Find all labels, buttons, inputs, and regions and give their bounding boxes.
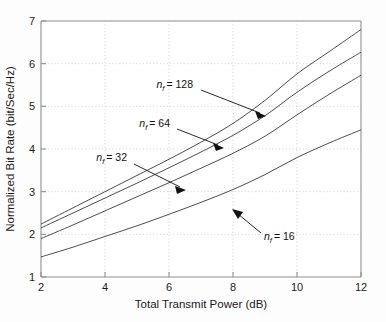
y-tick-label-2: 2 [29,228,35,240]
annotation-nf-128-value: = 128 [166,78,193,90]
y-axis-title: Normalized Bit Rate (bit/Sec/Hz) [4,66,16,232]
normalized-bit-rate-chart: 7 6 5 4 3 2 1 2 4 6 8 10 12 Total Transm… [0,0,386,322]
y-tick-label-5: 5 [29,100,35,112]
x-tick-label-12: 12 [355,281,367,293]
y-tick-label-1: 1 [29,271,35,283]
x-tick-label-4: 4 [102,281,108,293]
x-tick-label-8: 8 [230,281,236,293]
x-tick-label-10: 10 [291,281,303,293]
x-axis-title: Total Transmit Power (dB) [135,298,267,310]
y-tick-label-6: 6 [29,58,35,70]
x-tick-label-6: 6 [166,281,172,293]
chart-figure: 7 6 5 4 3 2 1 2 4 6 8 10 12 Total Transm… [0,0,386,322]
y-tick-label-3: 3 [29,186,35,198]
y-tick-label-4: 4 [29,143,35,155]
x-tick-label-2: 2 [38,281,44,293]
annotation-nf-16-value: = 16 [274,230,295,242]
y-tick-label-7: 7 [29,15,35,27]
annotation-nf-64-value: = 64 [149,117,170,129]
annotation-nf-32-value: = 32 [106,151,127,163]
